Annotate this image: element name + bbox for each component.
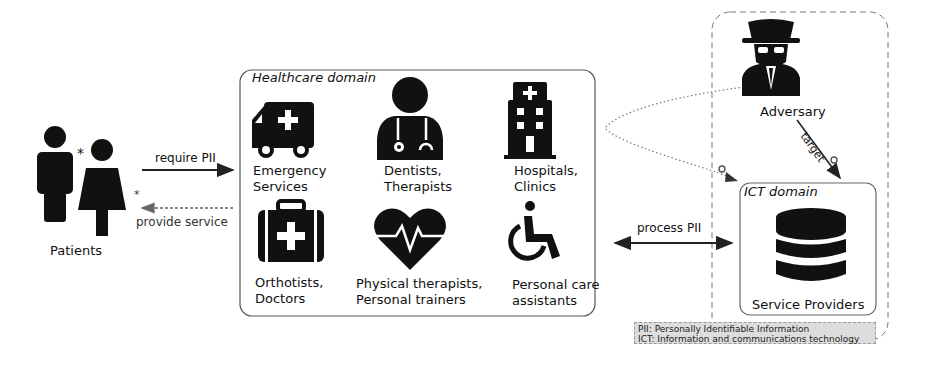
legend-line-ict: ICT: Information and communications tech… bbox=[638, 334, 872, 344]
healthcare-item-label: Dentists, Therapists bbox=[384, 163, 452, 195]
heartbeat-icon bbox=[374, 209, 446, 270]
healthcare-item-label: Personal care assistants bbox=[512, 277, 600, 309]
service-providers-label: Service Providers bbox=[752, 297, 864, 313]
adversary-icon bbox=[742, 19, 800, 96]
wheelchair-icon bbox=[511, 201, 560, 259]
healthcare-domain-title: Healthcare domain bbox=[252, 70, 376, 85]
healthcare-item-label: Orthotists, Doctors bbox=[255, 275, 323, 307]
medical-kit-icon bbox=[258, 201, 324, 262]
patients-icon bbox=[37, 126, 126, 236]
healthcare-item-label: Emergency Services bbox=[253, 163, 326, 195]
patients-label: Patients bbox=[50, 243, 102, 259]
require-pii-label: require PII bbox=[155, 150, 216, 166]
legend-line-pii: PII: Personally Identifiable Information bbox=[638, 324, 872, 334]
doctor-icon bbox=[377, 77, 443, 160]
hospital-icon bbox=[504, 82, 556, 159]
attack-path-dotted bbox=[605, 86, 752, 178]
ict-domain-title: ICT domain bbox=[744, 184, 818, 199]
patients-marker: * bbox=[77, 145, 84, 161]
database-icon bbox=[776, 208, 846, 281]
healthcare-item-label: Physical therapists, Personal trainers bbox=[356, 276, 482, 308]
process-pii-label: process PII bbox=[637, 220, 701, 236]
healthcare-item-label: Hospitals, Clinics bbox=[514, 163, 578, 195]
ambulance-icon bbox=[252, 102, 314, 158]
provide-service-label: provide service bbox=[136, 214, 228, 230]
adversary-label: Adversary bbox=[760, 104, 826, 120]
threat-boundary-box bbox=[712, 12, 888, 340]
legend-box: PII: Personally Identifiable Information… bbox=[634, 322, 876, 344]
